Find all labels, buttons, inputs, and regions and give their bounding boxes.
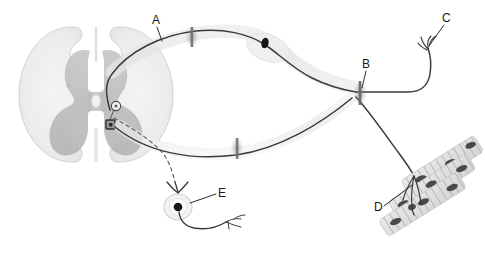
motor-neuron-soma: [106, 120, 115, 129]
anatomy-illustration: [0, 0, 485, 254]
leader-line-c: [429, 25, 444, 46]
node-of-ranvier-b: [353, 81, 367, 105]
label-b: B: [362, 58, 370, 70]
drg-nucleus: [174, 203, 183, 212]
interneuron: [111, 101, 120, 110]
label-c: C: [442, 12, 451, 24]
motor-axon-distal: [356, 97, 414, 176]
drg-neuron: [164, 182, 245, 229]
label-a: A: [152, 14, 160, 26]
skeletal-muscle: [378, 135, 483, 237]
figure-canvas: A B C D E: [0, 0, 485, 254]
sensory-nerve-ending: [418, 36, 436, 50]
label-e: E: [218, 187, 226, 199]
node-of-ranvier-motor: [231, 137, 244, 159]
leader-lines: [157, 25, 444, 206]
node-of-ranvier-proximal: [185, 26, 199, 48]
leader-line-e: [190, 194, 216, 203]
central-canal: [92, 95, 101, 107]
drg-terminal-arborization: [226, 215, 245, 229]
label-d: D: [374, 201, 383, 213]
